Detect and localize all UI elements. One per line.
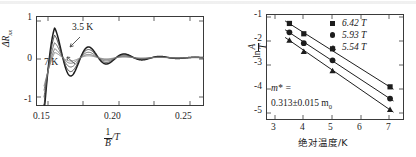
data-point-circle [330, 57, 336, 63]
left-x-tick-0p20: 0.20 [104, 112, 121, 122]
left-x-axis-fraction: 1 B [104, 128, 112, 148]
data-point-circle [301, 40, 307, 46]
right-x-axis-title: 绝对温度/K [298, 138, 347, 148]
right-y-tick-neg1: -1 [244, 10, 262, 20]
sdh-curve-4K [44, 35, 203, 105]
legend-label-2: 5.54 T [342, 41, 366, 54]
right-y-tick-neg4: -4 [244, 82, 262, 92]
right-y-tick-neg3: -3 [244, 58, 262, 68]
left-annotation-7K: 7 K [44, 57, 58, 69]
right-x-tick-5: 5 [328, 123, 333, 133]
left-y-tick-0: 0 [18, 54, 32, 64]
legend-item-1: 5.93 T [328, 29, 366, 41]
left-y-tick-1: 1 [18, 13, 32, 23]
data-point-circle [287, 29, 293, 35]
left-x-axis-title: 1 B /T [104, 128, 120, 148]
right-y-tick-neg5: -5 [244, 106, 262, 116]
effective-mass-label: m* = [271, 83, 291, 95]
legend-item-0: 6.42 T [328, 17, 366, 29]
left-annotation-3p5K: 3.5 K [72, 22, 93, 34]
sdh-curve-3.5K [44, 28, 203, 105]
panel-sdh-oscillations: ΔRxx 1 0 -1 [0, 0, 208, 157]
data-point-square [287, 21, 292, 26]
left-x-axis-numerator: 1 [104, 128, 112, 138]
left-x-tick-0p15: 0.15 [33, 112, 50, 122]
effective-mass-value-text: 0.313±0.015 m [271, 98, 329, 108]
left-y-tick-neg1: -1 [13, 95, 32, 105]
right-legend: 6.42 T 5.93 T 5.54 T [328, 17, 366, 53]
left-plot-frame [36, 16, 204, 106]
left-x-axis-unit: /T [112, 132, 120, 142]
circle-marker [328, 32, 337, 38]
data-point-triangle [387, 106, 393, 112]
right-x-tick-7: 7 [386, 123, 391, 133]
legend-item-2: 5.54 T [328, 41, 366, 53]
right-x-tick-4: 4 [300, 123, 305, 133]
data-point-triangle [286, 37, 292, 43]
left-x-axis-denominator: B [104, 138, 112, 149]
triangle-marker [328, 45, 337, 50]
data-point-circle [387, 96, 393, 102]
right-x-tick-6: 6 [357, 123, 362, 133]
effective-mass-value-sub: 0 [329, 103, 332, 110]
figure-root: ΔRxx 1 0 -1 [0, 0, 416, 157]
legend-label-1: 5.93 T [342, 29, 366, 42]
left-y-axis-title: ΔRxx [1, 30, 13, 47]
left-tick-marks [37, 17, 203, 105]
effective-mass-value: 0.313±0.015 m0 [271, 98, 332, 111]
sdh-curve-group [44, 28, 203, 105]
left-plot-canvas [37, 17, 203, 105]
right-x-tick-3: 3 [271, 123, 276, 133]
legend-label-0: 6.42 T [342, 17, 366, 30]
data-point-square [301, 31, 306, 36]
left-y-axis-title-main: ΔR [1, 36, 11, 47]
data-point-square [387, 84, 392, 89]
right-y-tick-neg2: -2 [244, 34, 262, 44]
left-y-axis-title-sub: xx [6, 30, 13, 36]
left-x-tick-0p25: 0.25 [175, 112, 192, 122]
panel-lifshitz-kosevich: ln A T -1 -2 -3 -4 -5 [208, 0, 416, 157]
square-marker [328, 21, 337, 26]
right-y-axis-numerator: A [248, 43, 258, 51]
